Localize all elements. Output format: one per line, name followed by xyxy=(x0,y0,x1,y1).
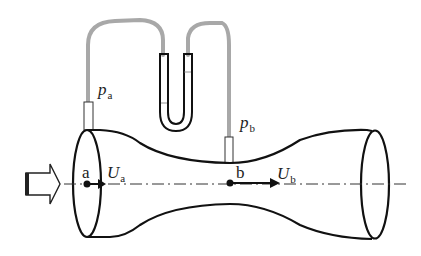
label-pa-sub: a xyxy=(108,89,113,101)
venturi-diagram: pa pb a Ua b Ub xyxy=(0,0,421,256)
label-ua-sub: a xyxy=(120,172,125,184)
label-pb-sub: b xyxy=(250,122,256,134)
label-ub: Ub xyxy=(277,165,296,182)
point-b-marker xyxy=(227,178,281,188)
inflow-arrow-icon xyxy=(25,164,60,204)
label-ub-sub: b xyxy=(290,173,296,185)
label-pa-main: p xyxy=(98,80,107,99)
label-pa: pa xyxy=(98,81,112,98)
u-tube-manometer xyxy=(160,54,192,131)
label-point-a: a xyxy=(82,164,90,181)
label-ua: Ua xyxy=(107,164,125,181)
label-ua-main: U xyxy=(107,163,119,182)
pressure-tap-a xyxy=(84,102,93,130)
hose-b xyxy=(188,23,229,137)
label-pb-main: p xyxy=(240,113,249,132)
diagram-graphics xyxy=(0,0,421,256)
label-pb: pb xyxy=(240,114,255,131)
label-point-b: b xyxy=(236,164,245,181)
label-ub-main: U xyxy=(277,164,289,183)
pressure-tap-b xyxy=(225,137,233,163)
